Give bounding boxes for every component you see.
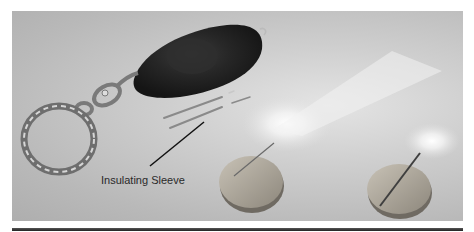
- photo: Insulating Sleeve: [12, 11, 463, 221]
- bottom-rule: [12, 228, 463, 231]
- photo-illustration: [12, 11, 463, 221]
- key-ring: [24, 106, 94, 172]
- flashlight-fob: [134, 25, 266, 98]
- keychain-clasp: [76, 73, 138, 115]
- led-glow-right: [404, 123, 460, 159]
- coin-battery-right: [367, 153, 432, 219]
- label-pointer: [150, 122, 204, 166]
- insulating-sleeve-label: Insulating Sleeve: [101, 174, 185, 186]
- coin-battery-left: [219, 143, 284, 213]
